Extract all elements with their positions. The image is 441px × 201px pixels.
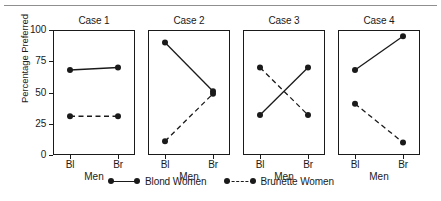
data-point-marker — [257, 65, 263, 71]
data-point-marker — [67, 67, 73, 73]
legend-item-blond-women: Blond Women — [107, 176, 207, 187]
series-line — [355, 36, 403, 70]
y-tick-label: 100 — [20, 24, 46, 35]
x-tick-label: Br — [392, 159, 414, 170]
chart-legend: Blond Women Brunette Women — [0, 176, 441, 187]
x-tick-label: Bl — [249, 159, 271, 170]
chart-figure: Percentage Preferred 0255075100 Case 1Bl… — [0, 0, 441, 201]
legend-line-dashed-icon — [223, 177, 257, 186]
series-line — [165, 43, 213, 92]
data-point-marker — [115, 65, 121, 71]
legend-item-brunette-women: Brunette Women — [223, 176, 334, 187]
panel-title: Case 3 — [243, 15, 325, 26]
data-point-marker — [400, 140, 406, 146]
y-tick-label: 75 — [20, 55, 46, 66]
y-tick-label: 0 — [20, 149, 46, 160]
legend-label-brunette-women: Brunette Women — [261, 176, 334, 187]
x-tick-label: Bl — [59, 159, 81, 170]
series-line — [355, 104, 403, 143]
x-tick-label: Br — [107, 159, 129, 170]
series-line — [70, 68, 118, 71]
y-tick-mark — [49, 155, 53, 156]
panel-title: Case 2 — [148, 15, 230, 26]
legend-label-blond-women: Blond Women — [145, 176, 207, 187]
data-point-marker — [305, 112, 311, 118]
y-tick-label: 50 — [20, 87, 46, 98]
x-tick-label: Br — [297, 159, 319, 170]
data-point-marker — [257, 112, 263, 118]
data-point-marker — [305, 65, 311, 71]
data-point-marker — [352, 67, 358, 73]
panel-series-layer — [243, 30, 325, 155]
y-tick-label: 25 — [20, 118, 46, 129]
panel-series-layer — [53, 30, 135, 155]
top-divider-rule — [4, 5, 437, 6]
data-point-marker — [210, 91, 216, 97]
panel-title: Case 4 — [338, 15, 420, 26]
x-tick-label: Bl — [344, 159, 366, 170]
data-point-marker — [162, 40, 168, 46]
panel-series-layer — [338, 30, 420, 155]
panel-series-layer — [148, 30, 230, 155]
panel-title: Case 1 — [53, 15, 135, 26]
data-point-marker — [162, 138, 168, 144]
data-point-marker — [115, 113, 121, 119]
x-tick-label: Br — [202, 159, 224, 170]
legend-line-solid-icon — [107, 177, 141, 186]
data-point-marker — [400, 33, 406, 39]
series-line — [165, 94, 213, 142]
data-point-marker — [352, 101, 358, 107]
x-tick-label: Bl — [154, 159, 176, 170]
data-point-marker — [67, 113, 73, 119]
